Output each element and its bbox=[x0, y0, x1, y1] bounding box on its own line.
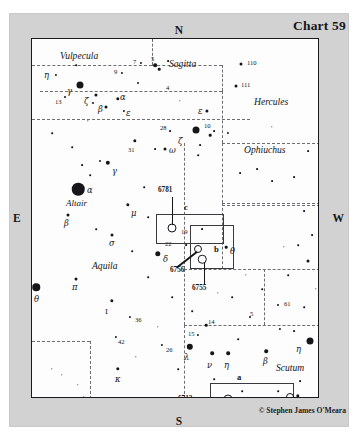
star bbox=[277, 390, 279, 392]
star bbox=[169, 130, 171, 132]
star bbox=[121, 72, 123, 74]
star bbox=[143, 186, 145, 188]
star bbox=[154, 148, 156, 150]
star-label: μ bbox=[131, 209, 136, 217]
star bbox=[205, 324, 208, 327]
star bbox=[199, 144, 201, 146]
constellation-label-aquila: Aquila bbox=[92, 261, 118, 271]
star bbox=[137, 82, 139, 84]
boundary-line bbox=[222, 91, 223, 143]
star-label: β bbox=[98, 105, 103, 113]
star bbox=[193, 127, 200, 134]
boundary-line bbox=[222, 205, 319, 206]
star bbox=[158, 68, 161, 71]
star bbox=[135, 356, 136, 357]
constellation-label-scutum: Scutum bbox=[276, 363, 304, 373]
open-cluster-6712[interactable] bbox=[224, 395, 233, 399]
star bbox=[311, 234, 313, 236]
star-label: θ bbox=[34, 295, 39, 303]
named-star-altair: Altair bbox=[66, 199, 87, 208]
star bbox=[83, 396, 84, 397]
boundary-line bbox=[222, 143, 223, 203]
star bbox=[75, 64, 77, 66]
star bbox=[171, 296, 173, 298]
star bbox=[131, 250, 133, 252]
star bbox=[213, 130, 215, 132]
star-label: 14 bbox=[208, 319, 215, 326]
star bbox=[105, 106, 108, 109]
star bbox=[75, 278, 78, 281]
star bbox=[77, 82, 84, 89]
finder-box-a-label: a bbox=[237, 373, 241, 382]
star-label: α bbox=[87, 186, 93, 194]
star bbox=[77, 384, 78, 385]
star-label: 4 bbox=[166, 85, 169, 92]
star-label: β bbox=[263, 357, 268, 365]
star-field[interactable]: η γ 13 ζ β α ε Vulpecula 9 7 5 4 Sagitta… bbox=[31, 38, 319, 398]
constellation-label-ophiuchus: Ophiuchus bbox=[244, 145, 286, 155]
star bbox=[217, 292, 218, 293]
ngc-label-6756: 6756 bbox=[170, 267, 184, 274]
star bbox=[187, 344, 193, 350]
star-label: 10 bbox=[204, 123, 211, 130]
star bbox=[245, 274, 246, 275]
star-label: η bbox=[44, 71, 49, 79]
star-label: 13 bbox=[55, 99, 62, 106]
star bbox=[297, 244, 299, 246]
star bbox=[106, 161, 110, 165]
star bbox=[71, 146, 73, 148]
star-label: 9 bbox=[114, 69, 117, 76]
star-label: 36 bbox=[135, 317, 142, 324]
finder-box-b-label: b bbox=[214, 245, 219, 254]
boundary-line bbox=[222, 65, 223, 91]
ngc-label-6712: 6712 bbox=[178, 396, 192, 398]
star bbox=[72, 183, 85, 196]
constellation-label-sagitta: Sagitta bbox=[169, 59, 196, 69]
boundary-line bbox=[32, 341, 90, 342]
star bbox=[256, 168, 258, 170]
star bbox=[147, 216, 149, 218]
star bbox=[210, 351, 214, 355]
star bbox=[307, 338, 314, 345]
star bbox=[205, 109, 208, 112]
star bbox=[164, 148, 167, 151]
star-label: γ bbox=[67, 87, 72, 95]
open-cluster-6664[interactable] bbox=[286, 393, 294, 398]
star-label: ν bbox=[207, 361, 212, 369]
star-label: 7 bbox=[133, 59, 136, 66]
star bbox=[303, 210, 305, 212]
star-label: 61 bbox=[284, 301, 291, 308]
star bbox=[89, 174, 91, 176]
star bbox=[92, 102, 94, 104]
star bbox=[231, 296, 233, 298]
constellation-label-hercules: Hercules bbox=[254, 97, 288, 107]
star-label: 15 bbox=[188, 331, 195, 338]
star-label: ε bbox=[126, 109, 131, 117]
star bbox=[61, 374, 62, 375]
star-label: 5 bbox=[151, 56, 154, 63]
star bbox=[129, 316, 131, 318]
open-cluster-6755[interactable] bbox=[198, 255, 207, 264]
star bbox=[296, 394, 299, 397]
star-label: 110 bbox=[247, 60, 257, 67]
star-label: 19 bbox=[181, 229, 188, 236]
finder-box-c-label: c bbox=[184, 203, 188, 212]
star-label: 5 bbox=[250, 311, 253, 318]
star-label: ε bbox=[198, 107, 203, 115]
star bbox=[209, 134, 212, 137]
star bbox=[179, 100, 180, 101]
star bbox=[177, 368, 179, 370]
star bbox=[303, 306, 305, 308]
star bbox=[110, 299, 113, 302]
star bbox=[95, 228, 97, 230]
star bbox=[51, 368, 52, 369]
star bbox=[293, 176, 295, 178]
star bbox=[271, 180, 273, 182]
star-label: π bbox=[72, 283, 78, 291]
star-label: λ bbox=[184, 353, 189, 361]
star bbox=[116, 367, 119, 370]
star bbox=[235, 85, 238, 88]
star bbox=[64, 96, 66, 98]
star bbox=[277, 304, 279, 306]
boundary-line bbox=[32, 119, 250, 120]
